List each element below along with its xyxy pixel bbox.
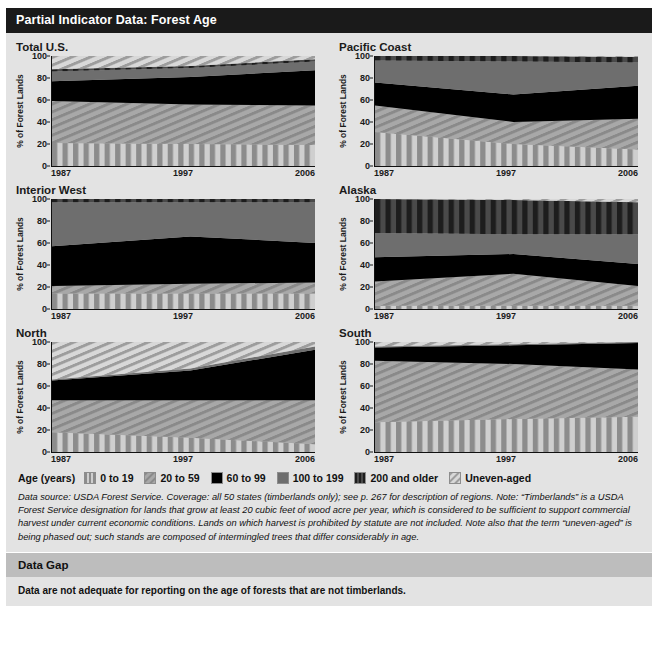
y-tick-label: 40 xyxy=(37,404,47,413)
y-tick-label: 60 xyxy=(37,382,47,391)
plot-area xyxy=(374,342,638,453)
x-axis-ticks: 1987 1997 2006 xyxy=(51,168,315,180)
x-tick-mid: 1997 xyxy=(173,454,193,464)
charts-grid: Total U.S. % of Forest Lands 02040608010… xyxy=(6,33,652,466)
chart-title: North xyxy=(16,327,321,339)
area-series xyxy=(52,294,315,309)
y-tick-mark xyxy=(47,408,50,409)
y-tick-label: 100 xyxy=(355,195,370,204)
y-axis-label: % of Forest Lands xyxy=(336,342,350,452)
y-tick-mark xyxy=(47,342,50,343)
legend-swatch-dark-vertical-stripe xyxy=(354,472,366,484)
legend-swatch-solid-black xyxy=(211,472,223,484)
area-series xyxy=(375,199,638,234)
y-tick-label: 60 xyxy=(360,239,370,248)
chart-panel-alaska: Alaska % of Forest Lands 020406080100 19… xyxy=(329,180,652,323)
plot-area xyxy=(51,56,315,167)
indicator-panel: Partial Indicator Data: Forest Age Total… xyxy=(6,8,652,606)
panel-title-bar: Partial Indicator Data: Forest Age xyxy=(6,8,652,33)
y-tick-mark xyxy=(370,221,373,222)
y-tick-mark xyxy=(47,56,50,57)
y-tick-mark xyxy=(370,78,373,79)
legend-item-label: 60 to 99 xyxy=(227,472,266,484)
y-tick-label: 40 xyxy=(37,261,47,270)
y-tick-label: 80 xyxy=(360,74,370,83)
x-tick-start: 1987 xyxy=(374,311,394,321)
chart-body: % of Forest Lands 020406080100 1987 1997… xyxy=(337,342,644,464)
y-tick-mark xyxy=(370,452,373,453)
y-tick-mark xyxy=(370,199,373,200)
x-tick-mid: 1997 xyxy=(496,454,516,464)
plot-area xyxy=(51,342,315,453)
y-tick-label: 20 xyxy=(37,283,47,292)
x-tick-mid: 1997 xyxy=(173,168,193,178)
y-tick-mark xyxy=(47,100,50,101)
y-tick-label: 80 xyxy=(360,217,370,226)
y-tick-mark xyxy=(370,56,373,57)
y-tick-mark xyxy=(47,386,50,387)
y-tick-label: 40 xyxy=(360,261,370,270)
legend-swatch-diagonal-hatch xyxy=(144,472,156,484)
area-series xyxy=(375,361,638,423)
y-tick-label: 60 xyxy=(360,382,370,391)
page-root: Partial Indicator Data: Forest Age Total… xyxy=(0,0,658,646)
y-tick-mark xyxy=(47,309,50,310)
y-tick-mark xyxy=(370,386,373,387)
plot-area xyxy=(374,56,638,167)
chart-body: % of Forest Lands 020406080100 1987 1997… xyxy=(14,56,321,178)
area-series xyxy=(52,101,315,145)
chart-title: Total U.S. xyxy=(16,41,321,53)
y-axis-ticks: 020406080100 xyxy=(28,199,50,309)
y-tick-mark xyxy=(47,199,50,200)
chart-body: % of Forest Lands 020406080100 1987 1997… xyxy=(337,199,644,321)
y-tick-label: 100 xyxy=(32,195,47,204)
chart-title: Interior West xyxy=(16,184,321,196)
y-tick-label: 60 xyxy=(37,96,47,105)
area-series xyxy=(52,143,315,166)
legend: Age (years) 0 to 1920 to 5960 to 99100 t… xyxy=(6,466,652,489)
legend-swatch-light-diagonal-hatch xyxy=(449,472,461,484)
x-tick-start: 1987 xyxy=(51,311,71,321)
chart-title: South xyxy=(339,327,644,339)
chart-title: Pacific Coast xyxy=(339,41,644,53)
y-tick-mark xyxy=(47,78,50,79)
x-axis-ticks: 1987 1997 2006 xyxy=(374,454,638,466)
y-tick-mark xyxy=(47,452,50,453)
legend-item-label: 200 and older xyxy=(370,472,438,484)
y-axis-ticks: 020406080100 xyxy=(28,56,50,166)
y-tick-label: 20 xyxy=(360,140,370,149)
chart-body: % of Forest Lands 020406080100 1987 1997… xyxy=(337,56,644,178)
y-tick-label: 100 xyxy=(32,338,47,347)
y-tick-label: 100 xyxy=(355,338,370,347)
y-axis-label: % of Forest Lands xyxy=(13,199,27,309)
y-tick-label: 40 xyxy=(360,404,370,413)
y-tick-mark xyxy=(47,287,50,288)
y-tick-mark xyxy=(370,430,373,431)
y-tick-mark xyxy=(370,408,373,409)
x-tick-end: 2006 xyxy=(618,168,638,178)
x-tick-end: 2006 xyxy=(618,311,638,321)
y-tick-mark xyxy=(370,122,373,123)
x-tick-end: 2006 xyxy=(295,311,315,321)
y-axis-label: % of Forest Lands xyxy=(13,342,27,452)
y-tick-mark xyxy=(47,364,50,365)
legend-title: Age (years) xyxy=(18,472,75,484)
y-axis-label: % of Forest Lands xyxy=(336,56,350,166)
chart-panel-south: South % of Forest Lands 020406080100 198… xyxy=(329,323,652,466)
y-tick-mark xyxy=(47,243,50,244)
y-axis-label: % of Forest Lands xyxy=(13,56,27,166)
legend-item-label: Uneven-aged xyxy=(465,472,531,484)
area-series xyxy=(52,236,315,286)
chart-title: Alaska xyxy=(339,184,644,196)
legend-item: 20 to 59 xyxy=(144,472,199,484)
y-axis-label: % of Forest Lands xyxy=(336,199,350,309)
chart-body: % of Forest Lands 020406080100 1987 1997… xyxy=(14,199,321,321)
x-axis-ticks: 1987 1997 2006 xyxy=(51,454,315,466)
legend-item: 0 to 19 xyxy=(84,472,133,484)
y-tick-mark xyxy=(47,166,50,167)
x-axis-ticks: 1987 1997 2006 xyxy=(374,168,638,180)
chart-panel-pacific-coast: Pacific Coast % of Forest Lands 02040608… xyxy=(329,37,652,180)
y-tick-mark xyxy=(370,287,373,288)
y-tick-mark xyxy=(47,265,50,266)
source-notes: Data source: USDA Forest Service. Covera… xyxy=(6,489,652,552)
